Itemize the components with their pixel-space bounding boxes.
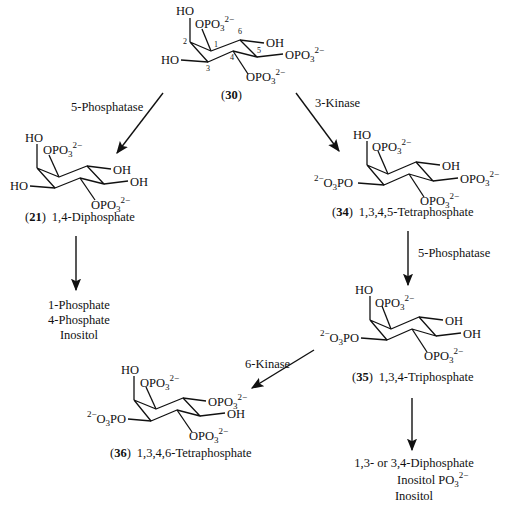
oh-label: OH bbox=[442, 159, 460, 173]
compound-35: HO OPO32− OH OH OPO32− 2−O3PO (35)1,3,4-… bbox=[320, 283, 481, 384]
ring-number: 5 bbox=[257, 46, 261, 55]
ho-label: HO bbox=[161, 53, 179, 67]
compound-34: HO OPO32− OH OPO32− OPO32− 2−O3PO (34)1,… bbox=[314, 128, 499, 219]
product-label: Inositol PO32− bbox=[397, 470, 468, 489]
compound-30: HO OPO32− OH OPO32− OPO32− HO 1 2 3 4 5 … bbox=[161, 4, 324, 102]
product-label: 4-Phosphate bbox=[48, 313, 110, 327]
opo3-label: OPO32− bbox=[372, 137, 411, 156]
ho-label: HO bbox=[121, 363, 139, 377]
ho-label: HO bbox=[25, 131, 43, 145]
ring-number: 3 bbox=[206, 64, 210, 73]
enzyme-label-6-kinase: 6-Kinase bbox=[245, 357, 291, 371]
products-left: 1-Phosphate 4-Phosphate Inositol bbox=[48, 298, 110, 342]
compound-caption-36: (36)1,3,4,6-Tetraphosphate bbox=[110, 446, 252, 460]
pathway-diagram: HO OPO32− OH OPO32− OPO32− HO 1 2 3 4 5 … bbox=[0, 0, 508, 513]
o3po-label: 2−O3PO bbox=[87, 409, 126, 428]
opo3-label: OPO32− bbox=[43, 140, 82, 159]
opo3-label: OPO32− bbox=[246, 67, 285, 86]
oh-label: OH bbox=[130, 175, 148, 189]
ho-label: HO bbox=[10, 179, 28, 193]
ho-label: HO bbox=[176, 4, 194, 18]
ring-number: 6 bbox=[238, 27, 242, 36]
o3po-label: 2−O3PO bbox=[314, 173, 353, 192]
product-label: Inositol bbox=[395, 489, 434, 503]
product-label: 1-Phosphate bbox=[48, 298, 110, 312]
enzyme-label-3-kinase: 3-Kinase bbox=[315, 96, 361, 110]
compound-caption-35: (35)1,3,4-Triphosphate bbox=[352, 370, 474, 384]
ring-number: 2 bbox=[183, 37, 187, 46]
oh-label: OH bbox=[463, 327, 481, 341]
ho-label: HO bbox=[353, 128, 371, 142]
oh-label: OH bbox=[445, 314, 463, 328]
opo3-label: OPO32− bbox=[140, 373, 179, 392]
compound-36: HO OPO32− OPO32− OH OPO32− 2−O3PO (36)1,… bbox=[87, 363, 252, 460]
oh-label: OH bbox=[227, 407, 245, 421]
opo3-label: OPO32− bbox=[375, 293, 414, 312]
opo3-label: OPO32− bbox=[424, 346, 463, 365]
enzyme-label-5-phosphatase-2: 5-Phosphatase bbox=[418, 246, 491, 260]
compound-id-30: (30) bbox=[221, 88, 242, 102]
opo3-label: OPO32− bbox=[460, 169, 499, 188]
opo3-label: OPO32− bbox=[189, 426, 228, 445]
ring-30 bbox=[190, 40, 257, 62]
opo3-label: OPO32− bbox=[285, 45, 324, 64]
ho-label: HO bbox=[355, 283, 373, 297]
compound-caption-34: (34)1,3,4,5-Tetraphosphate bbox=[332, 205, 474, 219]
product-label: Inositol bbox=[60, 328, 99, 342]
ring-number: 1 bbox=[214, 40, 218, 49]
o3po-label: 2−O3PO bbox=[320, 328, 359, 347]
opo3-label: OPO32− bbox=[195, 14, 234, 33]
products-right: 1,3- or 3,4-Diphosphate Inositol PO32− I… bbox=[354, 456, 474, 503]
product-label: 1,3- or 3,4-Diphosphate bbox=[354, 456, 474, 470]
compound-caption-21: (21)1,4-Diphosphate bbox=[25, 210, 135, 224]
oh-label: OH bbox=[266, 36, 284, 50]
compound-21: HO OPO32− OH OH OPO32− HO (21)1,4-Diphos… bbox=[10, 131, 148, 224]
ring-number: 4 bbox=[230, 53, 234, 62]
enzyme-label-5-phosphatase: 5-Phosphatase bbox=[71, 100, 144, 114]
oh-label: OH bbox=[113, 163, 131, 177]
